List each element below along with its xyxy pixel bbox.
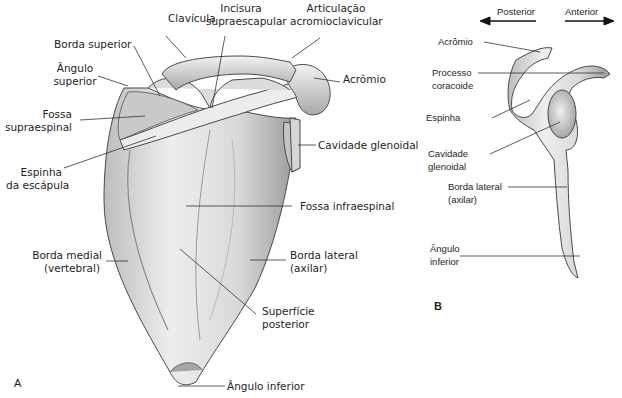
label-incisura-supraescapular-line2: supraescapular	[206, 15, 287, 28]
label-borda-superior: Borda superior	[54, 38, 131, 51]
panel-letter-b: B	[434, 300, 442, 312]
label-angulo-inferior: Ângulo inferior	[227, 380, 305, 393]
label-posterior: Posterior	[497, 6, 535, 18]
label-anterior: Anterior	[565, 6, 598, 18]
label-angulo-superior-line1: Ângulo	[52, 62, 98, 75]
label-b-cavidade-line1: Cavidade	[428, 148, 468, 160]
label-superficie-line2: posterior	[262, 318, 309, 331]
label-angulo-superior-line2: superior	[52, 75, 98, 88]
direction-arrows	[480, 17, 614, 25]
label-acromio: Acrômio	[343, 73, 386, 86]
label-fossa-supraespinal-line2: supraespinal	[0, 121, 72, 134]
scapula-posterior-view	[104, 78, 322, 385]
label-b-espinha: Espinha	[426, 112, 460, 124]
label-espinha-line2: da escápula	[6, 179, 69, 192]
label-fossa-supraespinal-line1: Fossa	[0, 108, 72, 121]
label-b-borda-lateral-line1: Borda lateral	[448, 181, 502, 193]
label-superficie-line1: Superfície	[262, 305, 315, 318]
label-cavidade-glenoidal: Cavidade glenoidal	[318, 139, 419, 152]
label-espinha-line1: Espinha	[0, 166, 62, 179]
label-b-angulo-line1: Ângulo	[430, 243, 460, 255]
label-articulacao-line1: Articulação	[286, 2, 386, 15]
label-b-borda-lateral-line2: (axilar)	[448, 194, 477, 206]
label-borda-lateral-line1: Borda lateral	[290, 249, 358, 262]
label-b-processo-line2: coracoide	[432, 80, 473, 92]
label-incisura-supraescapular-line1: Incisura	[206, 2, 276, 15]
label-articulacao-line2: acromioclavicular	[290, 15, 383, 28]
label-b-processo-line1: Processo	[432, 67, 472, 79]
posterior-arrowhead-icon	[480, 17, 490, 25]
label-borda-medial-line2: (vertebral)	[0, 262, 100, 275]
scapula-illustration	[0, 0, 622, 398]
scapula-lateral-view	[508, 48, 610, 278]
anterior-arrowhead-icon	[604, 17, 614, 25]
label-fossa-infraespinal: Fossa infraespinal	[300, 200, 394, 213]
label-b-angulo-line2: inferior	[430, 256, 459, 268]
label-b-cavidade-line2: glenoidal	[428, 161, 466, 173]
label-borda-medial-line1: Borda medial	[0, 249, 102, 262]
panel-letter-a: A	[14, 377, 21, 389]
label-borda-lateral-line2: (axilar)	[290, 262, 327, 275]
label-b-acromio: Acrômio	[438, 36, 473, 48]
